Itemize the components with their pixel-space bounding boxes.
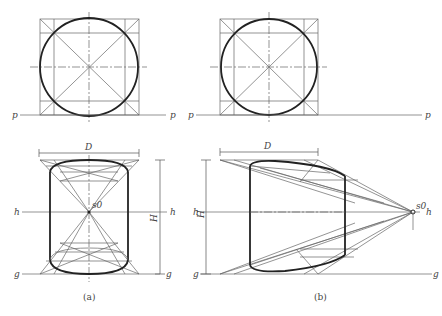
diameter-label: D: [263, 141, 271, 151]
s0-label: s0: [416, 201, 427, 211]
panel-a-perspective: D H h h g g: [14, 142, 176, 302]
g-label-left: g: [14, 269, 20, 279]
h-label-right: h: [426, 207, 432, 217]
caption-b: (b): [314, 292, 327, 302]
p-label-right: p: [425, 110, 431, 120]
g-label-right: g: [433, 269, 439, 279]
vanishing-point: [87, 210, 90, 213]
g-label-left: g: [193, 269, 199, 279]
s0-label: s0: [92, 200, 103, 210]
h-label-left: h: [193, 207, 199, 217]
caption-a: (a): [83, 292, 95, 302]
panel-b-top-view: p p: [188, 12, 431, 122]
p-label-right: p: [170, 110, 176, 120]
perspective-cylinder-diagram: p p p p D H h h g g: [0, 0, 442, 316]
h-label-left: h: [14, 207, 20, 217]
h-label-right: h: [170, 207, 176, 217]
diameter-label: D: [84, 142, 92, 152]
height-label: H: [149, 214, 159, 223]
g-label-right: g: [166, 269, 172, 279]
p-label-left: p: [12, 110, 18, 120]
p-label-left: p: [188, 110, 194, 120]
panel-a-top-view: p p: [12, 12, 176, 122]
panel-b-perspective: D H h h g g: [193, 141, 439, 302]
